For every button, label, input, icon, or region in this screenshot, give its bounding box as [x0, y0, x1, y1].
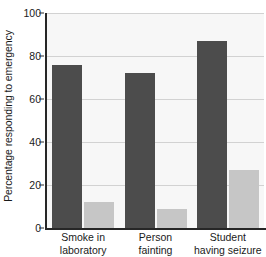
bar: [84, 202, 114, 228]
y-tick-mark: [39, 99, 44, 100]
bar-chart: Percentage responding to emergency 02040…: [0, 0, 266, 257]
x-tick-label-line: Person: [139, 231, 172, 243]
y-tick-mark: [39, 56, 44, 57]
x-tick-label-line: fainting: [119, 244, 191, 257]
x-tick-label: Smoke inlaboratory: [47, 231, 119, 256]
y-tick-mark: [39, 185, 44, 186]
bar: [125, 73, 155, 228]
bars-layer: [47, 13, 264, 228]
bar: [229, 170, 259, 228]
y-tick-mark: [39, 13, 44, 14]
x-tick-label: Personfainting: [119, 231, 191, 256]
x-tick-label: Studenthaving seizure: [192, 231, 264, 256]
bar: [157, 209, 187, 228]
x-axis-line: [45, 228, 266, 230]
x-tick-label-line: having seizure: [192, 244, 264, 257]
y-axis-title-text: Percentage responding to emergency: [2, 30, 14, 202]
x-axis-tick-labels: Smoke inlaboratoryPersonfaintingStudenth…: [47, 231, 264, 257]
y-axis-tick-labels: 020406080100: [16, 0, 44, 232]
bar: [52, 65, 82, 228]
x-tick-label-line: laboratory: [47, 244, 119, 257]
y-tick-mark: [39, 142, 44, 143]
x-tick-label-line: Smoke in: [61, 231, 105, 243]
x-tick-label-line: Student: [210, 231, 246, 243]
bar: [197, 41, 227, 228]
y-tick-mark: [39, 228, 44, 229]
y-axis-title: Percentage responding to emergency: [0, 0, 16, 232]
